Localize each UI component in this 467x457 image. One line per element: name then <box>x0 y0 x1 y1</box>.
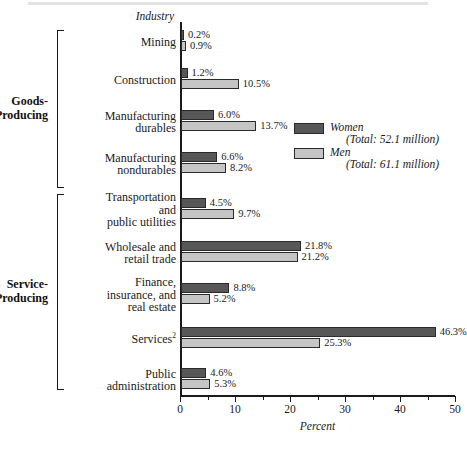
x-tick-minor <box>428 396 429 400</box>
legend-label-men: Men <box>330 146 350 158</box>
x-tick-minor <box>263 396 264 400</box>
legend-label-women: Women <box>330 121 363 133</box>
category-label-line: public utilities <box>60 216 176 229</box>
category-label-line: Finance, <box>60 276 176 289</box>
bar-value-label-women: 0.2% <box>188 29 210 40</box>
x-tick-major <box>400 396 401 402</box>
bar-value-label-men: 9.7% <box>238 208 260 219</box>
x-tick-label: 30 <box>339 403 351 415</box>
category-label: Transportationandpublic utilities <box>60 191 176 229</box>
category-label-line: nondurables <box>60 164 176 177</box>
bar-value-label-women: 8.8% <box>233 282 255 293</box>
category-label: Manufacturingnondurables <box>60 152 176 177</box>
bar-women <box>181 30 184 40</box>
x-tick-major <box>180 396 181 402</box>
bar-value-label-men: 8.2% <box>230 162 252 173</box>
bar-value-label-women: 4.6% <box>210 367 232 378</box>
bar-value-label-men: 25.3% <box>324 337 351 348</box>
bar-value-label-women: 4.5% <box>210 197 232 208</box>
legend-total-men: (Total: 61.1 million) <box>346 158 439 170</box>
bar-value-label-men: 13.7% <box>260 120 287 131</box>
bar-value-label-men: 10.5% <box>243 78 270 89</box>
category-label: Services2 <box>60 333 176 346</box>
bar-value-label-women: 1.2% <box>192 67 214 78</box>
category-label-line: administration <box>60 380 176 393</box>
x-tick-label: 0 <box>177 403 183 415</box>
group-label-line: Producing <box>0 109 48 123</box>
category-label: Construction <box>60 74 176 87</box>
x-tick-major <box>455 396 456 402</box>
bar-value-label-men: 5.2% <box>214 293 236 304</box>
category-label-line: real estate <box>60 301 176 314</box>
group-label: Service-Producing <box>0 278 48 305</box>
bar-women <box>181 368 206 378</box>
category-label: Mining <box>60 36 176 49</box>
group-label-line: Service- <box>0 278 48 292</box>
bar-men <box>181 79 239 89</box>
bar-men <box>181 41 186 51</box>
bar-women <box>181 283 229 293</box>
x-tick-label: 40 <box>394 403 406 415</box>
bar-value-label-women: 21.8% <box>305 240 332 251</box>
bar-men <box>181 163 226 173</box>
group-label-line: Goods- <box>0 95 48 109</box>
category-label-line: Transportation <box>60 191 176 204</box>
category-label: Wholesale andretail trade <box>60 241 176 266</box>
x-tick-label: 50 <box>449 403 461 415</box>
x-tick-minor <box>373 396 374 400</box>
footnote-marker: 2 <box>172 331 176 340</box>
bar-value-label-men: 0.9% <box>190 40 212 51</box>
bar-women <box>181 68 188 78</box>
bar-value-label-women: 46.3% <box>440 326 467 337</box>
bar-men <box>181 252 298 262</box>
top-divider-rule <box>28 2 428 5</box>
bar-value-label-men: 5.3% <box>214 378 236 389</box>
plot-area: 0.2%0.9%1.2%10.5%6.0%13.7%6.6%8.2%4.5%9.… <box>180 22 455 396</box>
bar-men <box>181 294 210 304</box>
x-tick-major <box>235 396 236 402</box>
bar-value-label-men: 21.2% <box>302 251 329 262</box>
x-tick-label: 20 <box>284 403 296 415</box>
category-label: Finance,insurance, andreal estate <box>60 276 176 314</box>
x-tick-major <box>290 396 291 402</box>
category-label: Manufacturingdurables <box>60 110 176 135</box>
bar-men <box>181 121 256 131</box>
category-label-line: durables <box>60 122 176 135</box>
group-label: Goods-Producing <box>0 95 48 122</box>
bar-women <box>181 241 301 251</box>
x-tick-label: 10 <box>229 403 241 415</box>
group-label-line: Producing <box>0 292 48 306</box>
legend-swatch-men-icon <box>294 148 324 159</box>
legend-total-women: (Total: 52.1 million) <box>346 133 439 145</box>
bar-value-label-women: 6.6% <box>221 151 243 162</box>
x-axis-title: Percent <box>180 420 455 432</box>
legend-swatch-women-icon <box>294 123 324 134</box>
bar-women <box>181 110 214 120</box>
category-label: Publicadministration <box>60 368 176 393</box>
bar-men <box>181 209 234 219</box>
category-label-line: retail trade <box>60 253 176 266</box>
bar-women <box>181 152 217 162</box>
category-label-line: Construction <box>60 74 176 87</box>
bar-women <box>181 198 206 208</box>
y-axis-title: Industry <box>106 10 174 22</box>
bar-women <box>181 327 436 337</box>
bar-value-label-women: 6.0% <box>218 109 240 120</box>
category-label-line: Mining <box>60 36 176 49</box>
category-label-line: Services2 <box>60 333 176 346</box>
bar-men <box>181 379 210 389</box>
x-tick-minor <box>318 396 319 400</box>
x-tick-major <box>345 396 346 402</box>
bar-men <box>181 338 320 348</box>
x-tick-minor <box>208 396 209 400</box>
